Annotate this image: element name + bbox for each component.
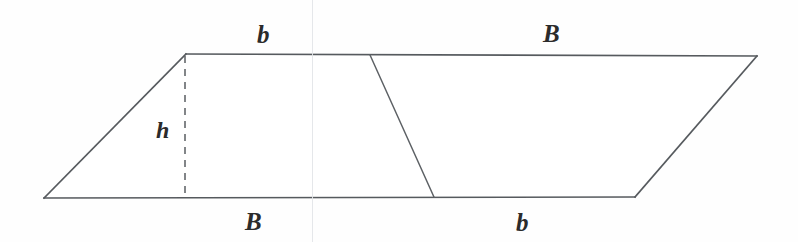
label-bottom-short-base: b xyxy=(516,210,529,235)
parallelogram-face xyxy=(44,54,757,198)
label-bottom-long-base: B xyxy=(245,209,262,234)
label-top-short-base: b xyxy=(257,22,270,47)
label-height: h xyxy=(156,118,169,142)
bottom-edge xyxy=(44,197,635,198)
label-top-long-base: B xyxy=(543,21,560,46)
trapezoid-figure: b B B b h xyxy=(0,0,798,242)
geometry-canvas xyxy=(0,0,798,242)
